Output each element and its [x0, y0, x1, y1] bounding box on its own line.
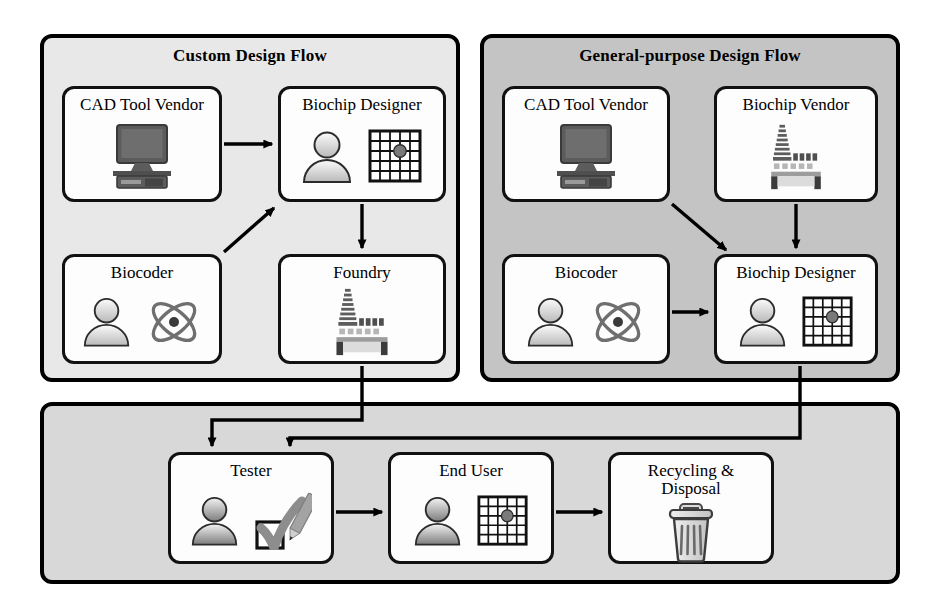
- node-icon-row: [171, 480, 331, 561]
- node-tester[interactable]: Tester: [168, 452, 334, 564]
- monitor-icon: [553, 123, 619, 191]
- node-icon-row: [281, 114, 443, 199]
- person-icon: [526, 295, 576, 349]
- node-icon-row: [505, 282, 667, 361]
- person-icon: [738, 295, 788, 349]
- biochip-grid-icon: [477, 495, 529, 547]
- person-icon: [301, 129, 354, 185]
- node-label: CAD Tool Vendor: [524, 96, 648, 114]
- person-icon: [82, 295, 132, 349]
- node-custom-foundry[interactable]: Foundry: [278, 254, 446, 364]
- node-icon-row: [65, 282, 219, 361]
- node-label: Biochip Designer: [736, 264, 855, 282]
- panel-title-custom: Custom Design Flow: [44, 46, 456, 66]
- node-recycling-disposal[interactable]: Recycling & Disposal: [608, 452, 774, 564]
- node-end-user[interactable]: End User: [388, 452, 554, 564]
- node-label: Recycling & Disposal: [648, 462, 734, 499]
- node-general-biocoder[interactable]: Biocoder: [502, 254, 670, 364]
- node-icon-row: [717, 282, 875, 361]
- biochip-grid-icon: [802, 296, 854, 348]
- person-icon: [190, 494, 240, 548]
- node-label: Biocoder: [555, 264, 617, 282]
- node-icon-row: [65, 114, 219, 199]
- monitor-icon: [109, 123, 175, 191]
- node-icon-row: [391, 480, 551, 561]
- trashcan-icon: [666, 499, 716, 565]
- node-general-cad-tool-vendor[interactable]: CAD Tool Vendor: [502, 86, 670, 202]
- checklist-pen-icon: [254, 492, 312, 550]
- node-custom-biochip-designer[interactable]: Biochip Designer: [278, 86, 446, 202]
- node-icon-row: [505, 114, 667, 199]
- figure-canvas: Custom Design Flow General-purpose Desig…: [0, 0, 937, 612]
- node-label: Biochip Vendor: [743, 96, 850, 114]
- factory-icon: [766, 123, 826, 191]
- biochip-grid-icon: [368, 129, 423, 184]
- node-custom-cad-tool-vendor[interactable]: CAD Tool Vendor: [62, 86, 222, 202]
- node-label: Biochip Designer: [302, 96, 421, 114]
- atom-icon: [590, 294, 646, 350]
- node-label: CAD Tool Vendor: [80, 96, 204, 114]
- node-icon-row: [281, 282, 443, 361]
- person-icon: [413, 494, 463, 548]
- node-icon-row: [611, 499, 771, 565]
- node-label: Biocoder: [111, 264, 173, 282]
- node-custom-biocoder[interactable]: Biocoder: [62, 254, 222, 364]
- node-label: End User: [439, 462, 503, 480]
- node-general-biochip-designer[interactable]: Biochip Designer: [714, 254, 878, 364]
- node-label: Foundry: [333, 264, 391, 282]
- node-icon-row: [717, 114, 875, 199]
- node-general-biochip-vendor[interactable]: Biochip Vendor: [714, 86, 878, 202]
- atom-icon: [146, 294, 202, 350]
- panel-title-general: General-purpose Design Flow: [484, 46, 896, 66]
- node-label: Tester: [230, 462, 271, 480]
- factory-icon: [331, 287, 393, 357]
